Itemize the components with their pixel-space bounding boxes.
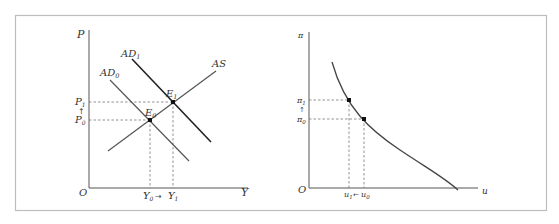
phillips-curve <box>332 62 458 190</box>
y0-tick-label: Y0 <box>143 190 154 202</box>
origin-label: O <box>79 187 87 198</box>
y1-tick-label: Y1 <box>168 190 178 202</box>
origin-label-right: O <box>298 184 306 195</box>
point-pi1 <box>347 98 351 102</box>
phillips-guide-lines <box>309 100 364 188</box>
pi1-tick-label: π1 <box>296 96 306 106</box>
as-curve <box>108 71 216 151</box>
u1-tick-label: u1 <box>344 190 353 200</box>
pi-axis-label: π <box>297 31 304 40</box>
pi-arrow: ↑ <box>299 106 305 114</box>
y-axis-label: Y <box>241 186 250 199</box>
p-axis-label: P <box>76 28 85 41</box>
as-label: AS <box>211 58 226 69</box>
ad1-label: AD1 <box>120 48 140 61</box>
u-axis-label: u <box>482 186 488 196</box>
figure-frame <box>16 16 547 211</box>
ad0-label: AD0 <box>99 67 119 80</box>
economics-diagram: P Y O AD1 AD0 AS E1 E0 P1 ↑ P0 Y0 → Y1 <box>0 0 559 224</box>
guide-lines <box>89 102 173 188</box>
y-arrow: → <box>155 192 162 201</box>
ad-as-panel: P Y O AD1 AD0 AS E1 E0 P1 ↑ P0 Y0 → Y1 <box>74 28 250 202</box>
e1-label: E1 <box>165 88 177 101</box>
u0-tick-label: u0 <box>361 190 370 200</box>
diagram-stage: P Y O AD1 AD0 AS E1 E0 P1 ↑ P0 Y0 → Y1 <box>0 0 559 224</box>
phillips-panel: π u O π1 ↑ π0 u1 ← u0 <box>296 31 488 200</box>
pi0-tick-label: π0 <box>296 115 306 125</box>
u-arrow: ← <box>353 191 359 199</box>
point-pi0 <box>362 117 366 121</box>
